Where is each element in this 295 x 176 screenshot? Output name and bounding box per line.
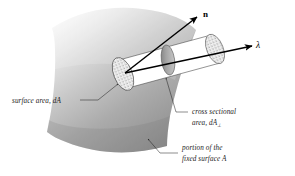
label-fixed-surface-line2: fixed surface A <box>182 155 227 163</box>
normal-vector-label: n <box>203 9 208 19</box>
flux-geometry-diagram: n λ surface area, dA cross sectional are… <box>0 0 295 176</box>
label-cross-section-subscript: ⊥ <box>217 123 221 128</box>
label-surface-area: surface area, dA <box>12 97 62 105</box>
figure-container: n λ surface area, dA cross sectional are… <box>0 0 295 176</box>
label-cross-section-line2: area, dA⊥ <box>192 119 221 128</box>
label-fixed-surface-line1: portion of the <box>181 144 223 152</box>
label-cross-section-area-text: area, dA <box>192 119 218 127</box>
label-cross-section-line1: cross sectional <box>192 108 236 116</box>
direction-vector-label: λ <box>255 40 260 50</box>
